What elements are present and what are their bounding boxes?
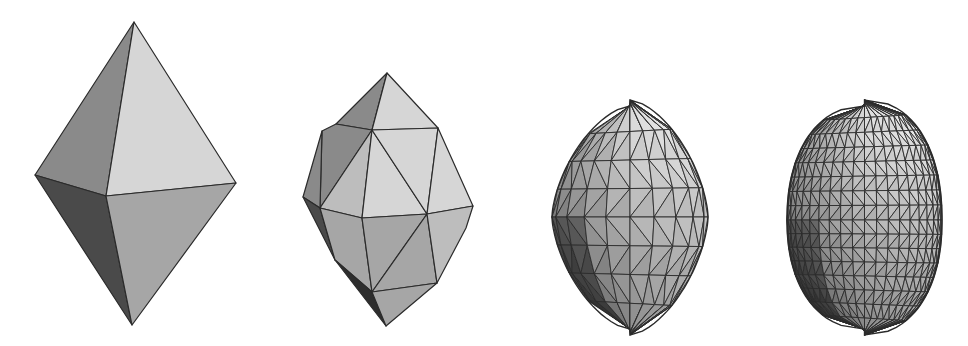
figure-canvas: Successive subdivision of an octahedron … bbox=[0, 0, 968, 346]
subdivided-level-3-shape bbox=[787, 100, 942, 335]
subdivided-level-1-shape bbox=[303, 73, 473, 326]
mesh-figure bbox=[0, 0, 968, 346]
subdivided-level-2-shape bbox=[552, 100, 708, 335]
octahedron-shape bbox=[35, 22, 236, 325]
mesh-face bbox=[303, 131, 322, 208]
